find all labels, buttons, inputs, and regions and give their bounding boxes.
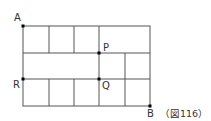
label-a: A	[14, 12, 21, 23]
label-q: Q	[102, 80, 110, 91]
route-diagram: A P R Q B （図116）	[0, 0, 211, 121]
point-a	[22, 25, 25, 28]
label-p: P	[103, 42, 109, 53]
point-r	[22, 78, 25, 81]
point-q	[98, 78, 101, 81]
label-r: R	[13, 79, 20, 90]
grid-outline	[23, 26, 150, 106]
figure-caption: （図116）	[160, 108, 208, 119]
label-b: B	[147, 108, 154, 119]
point-p	[98, 52, 101, 55]
